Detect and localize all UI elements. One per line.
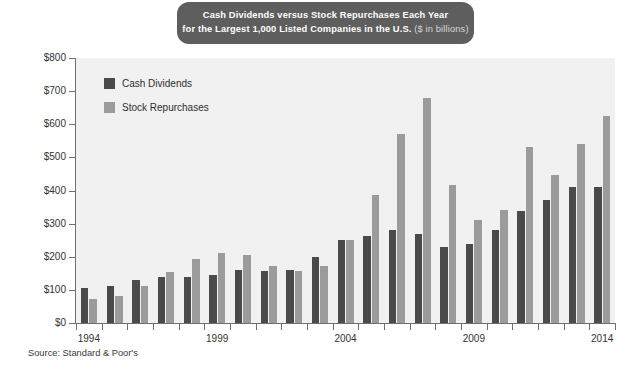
bar-stock-repurchases (577, 144, 585, 323)
x-axis-tick (589, 324, 590, 330)
bar-stock-repurchases (295, 271, 303, 323)
y-axis-tick (69, 323, 76, 324)
bar-stock-repurchases (243, 255, 251, 323)
x-axis-tick (435, 324, 436, 330)
bar-stock-repurchases (449, 185, 457, 323)
bar-cash-dividends (107, 286, 115, 323)
x-axis-tick (76, 324, 77, 330)
legend-label: Cash Dividends (122, 78, 192, 89)
bar-cash-dividends (286, 270, 294, 323)
y-axis-label: $400 (8, 185, 66, 196)
x-axis-label: 1994 (78, 333, 100, 344)
bar-stock-repurchases (320, 266, 328, 323)
bar-stock-repurchases (526, 147, 534, 323)
bar-stock-repurchases (372, 195, 380, 323)
x-axis-label: 2014 (591, 333, 613, 344)
legend-item-repurchases: Stock Repurchases (104, 102, 209, 113)
chart-title-line-1: Cash Dividends versus Stock Repurchases … (177, 8, 474, 22)
x-axis-tick (127, 324, 128, 330)
x-axis-tick (461, 324, 462, 330)
bar-cash-dividends (338, 240, 346, 323)
y-axis-tick (69, 157, 76, 158)
y-axis-label: $100 (8, 284, 66, 295)
bar-cash-dividends (415, 234, 423, 323)
y-axis-tick (69, 224, 76, 225)
x-axis-tick (102, 324, 103, 330)
x-axis-tick (487, 324, 488, 330)
x-axis-tick (538, 324, 539, 330)
x-axis-line (75, 323, 616, 324)
x-axis-tick (281, 324, 282, 330)
y-axis-label: $700 (8, 85, 66, 96)
bar-cash-dividends (363, 236, 371, 323)
bar-stock-repurchases (115, 296, 123, 323)
bar-cash-dividends (517, 211, 525, 323)
bar-cash-dividends (492, 230, 500, 323)
bar-cash-dividends (132, 280, 140, 323)
bar-cash-dividends (312, 257, 320, 323)
y-axis-tick (69, 58, 76, 59)
x-axis-tick (307, 324, 308, 330)
bar-stock-repurchases (603, 116, 611, 323)
chart-title-banner: Cash Dividends versus Stock Repurchases … (177, 2, 474, 44)
bar-stock-repurchases (423, 98, 431, 323)
x-axis-tick (512, 324, 513, 330)
legend-swatch-icon (104, 78, 115, 89)
y-axis-label: $200 (8, 251, 66, 262)
bar-stock-repurchases (141, 286, 149, 323)
chart-figure: Cash Dividends versus Stock Repurchases … (0, 0, 635, 370)
chart-title-line-2-main: for the Largest 1,000 Listed Companies i… (182, 24, 411, 34)
bar-cash-dividends (543, 200, 551, 323)
bar-cash-dividends (235, 270, 243, 323)
source-note: Source: Standard & Poor's (28, 348, 138, 358)
x-axis-tick (256, 324, 257, 330)
x-axis-tick (358, 324, 359, 330)
x-axis-tick (615, 324, 616, 330)
y-axis-tick (69, 91, 76, 92)
legend-item-dividends: Cash Dividends (104, 78, 209, 89)
x-axis-tick (230, 324, 231, 330)
bar-cash-dividends (209, 275, 217, 323)
bar-stock-repurchases (500, 210, 508, 323)
x-axis-tick (204, 324, 205, 330)
x-axis-label: 1999 (206, 333, 228, 344)
chart-title-line-2: for the Largest 1,000 Listed Companies i… (177, 22, 474, 36)
y-axis-tick (69, 290, 76, 291)
bar-cash-dividends (184, 277, 192, 323)
bar-cash-dividends (81, 288, 89, 323)
legend-label: Stock Repurchases (122, 102, 209, 113)
y-axis-label: $0 (8, 317, 66, 328)
legend-swatch-icon (104, 102, 115, 113)
y-axis-label: $600 (8, 118, 66, 129)
bar-cash-dividends (389, 230, 397, 323)
y-axis: $0$100$200$300$400$500$600$700$800 (0, 0, 66, 370)
y-axis-tick (69, 257, 76, 258)
bar-stock-repurchases (166, 272, 174, 323)
bar-stock-repurchases (474, 220, 482, 323)
y-axis-label: $300 (8, 218, 66, 229)
bar-stock-repurchases (218, 253, 226, 323)
x-axis-tick (333, 324, 334, 330)
x-axis-label: 2009 (463, 333, 485, 344)
bar-cash-dividends (466, 244, 474, 324)
y-axis-label: $800 (8, 52, 66, 63)
bar-stock-repurchases (551, 175, 559, 323)
bar-cash-dividends (569, 187, 577, 323)
bar-cash-dividends (594, 187, 602, 323)
bar-stock-repurchases (192, 259, 200, 323)
x-axis-tick (384, 324, 385, 330)
x-axis-label: 2004 (334, 333, 356, 344)
x-axis-tick (410, 324, 411, 330)
bar-stock-repurchases (397, 134, 405, 323)
y-axis-tick (69, 124, 76, 125)
x-axis-tick (153, 324, 154, 330)
bar-cash-dividends (440, 247, 448, 323)
bar-stock-repurchases (346, 240, 354, 323)
x-axis-tick (179, 324, 180, 330)
chart-title-units: ($ in billions) (411, 24, 468, 34)
y-axis-label: $500 (8, 151, 66, 162)
y-axis-tick (69, 191, 76, 192)
bar-stock-repurchases (269, 266, 277, 323)
bar-cash-dividends (261, 271, 269, 323)
x-axis-tick (564, 324, 565, 330)
